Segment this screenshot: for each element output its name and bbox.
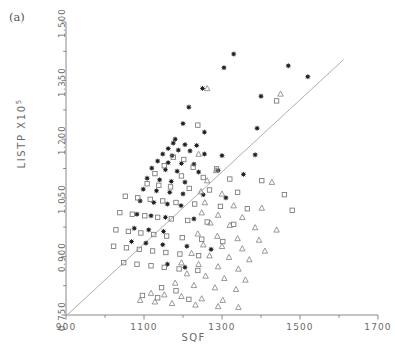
series-open-triangle-markers (137, 86, 283, 310)
y-tick-label: 1.350 (57, 67, 67, 97)
x-tick-label: 1300 (200, 322, 244, 332)
x-tick-label: 1700 (356, 322, 395, 332)
y-tick-label: 1.050 (57, 184, 67, 214)
y-tick-label: 0.900 (57, 243, 67, 273)
x-tick-label: 1100 (122, 322, 166, 332)
panel-label: (a) (9, 10, 25, 24)
data-points (111, 52, 310, 310)
x-tick-label: 900 (44, 322, 88, 332)
y-tick-label: 1.500 (57, 8, 67, 38)
y-tick-label: 1.200 (57, 125, 67, 155)
regression-line (68, 60, 344, 315)
series-open-square-markers (111, 99, 294, 302)
x-axis-title: SQF (0, 332, 387, 343)
y-axis-title: LISTP X105 (15, 89, 27, 179)
x-tick-label: 1500 (278, 322, 322, 332)
